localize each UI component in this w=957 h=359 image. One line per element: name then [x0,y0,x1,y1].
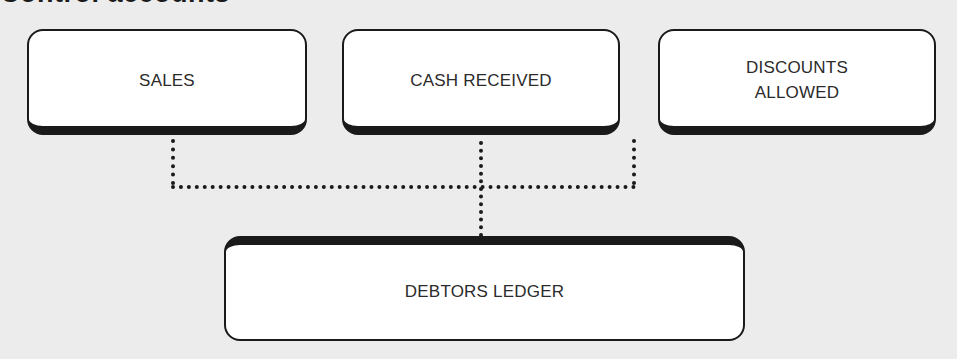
connector-sales-vertical [171,139,175,185]
discounts-allowed-label: DISCOUNTS ALLOWED [746,55,848,105]
debtors-ledger-label: DEBTORS LEDGER [405,279,564,304]
connector-cash-vertical [479,141,483,237]
diagram-title: Control accounts [0,0,230,9]
debtors-ledger-box: DEBTORS LEDGER [224,236,745,341]
connector-horizontal [171,185,636,189]
connector-discounts-vertical [632,139,636,185]
discounts-allowed-box: DISCOUNTS ALLOWED [658,29,936,135]
sales-box: SALES [27,29,307,135]
cash-received-label: CASH RECEIVED [410,68,551,93]
cash-received-box: CASH RECEIVED [342,29,620,135]
sales-label: SALES [139,68,195,93]
